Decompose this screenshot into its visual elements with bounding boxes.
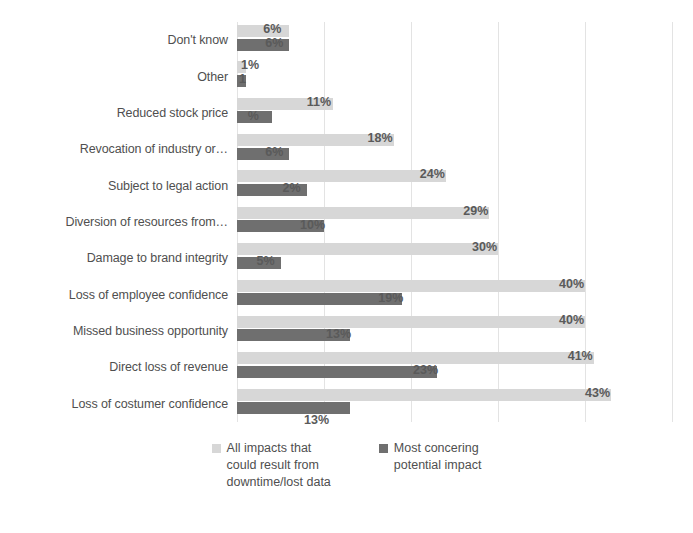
bar-value-most-concerning: 2% <box>283 182 301 194</box>
bar-group: 40%19% <box>237 277 693 313</box>
chart-row: Missed business opportunity40%13% <box>0 313 693 349</box>
bar-value-most-concerning: 13% <box>326 328 351 340</box>
plot-area: Don't know6%6%Other1%1Reduced stock pric… <box>0 22 693 422</box>
bar-value-all-impacts: 43% <box>585 387 610 399</box>
bar-group: 18%6% <box>237 131 693 167</box>
category-label: Loss of costumer confidence <box>0 386 228 422</box>
legend-item[interactable]: All impacts that could result from downt… <box>212 440 331 491</box>
bar-all-impacts <box>237 280 585 292</box>
chart-legend: All impacts that could result from downt… <box>0 440 693 491</box>
category-label: Don't know <box>0 22 228 58</box>
chart-row: Subject to legal action24%2% <box>0 167 693 203</box>
chart-row: Loss of costumer confidence43%13% <box>0 386 693 422</box>
legend-swatch-dark <box>379 444 388 453</box>
chart-row: Direct loss of revenue41%23% <box>0 349 693 385</box>
bar-value-all-impacts: 11% <box>307 96 331 108</box>
bar-value-all-impacts: 40% <box>559 278 584 290</box>
bar-value-all-impacts: 30% <box>472 241 497 253</box>
category-label: Revocation of industry or… <box>0 131 228 167</box>
category-label: Direct loss of revenue <box>0 349 228 385</box>
bar-value-most-concerning: 1 <box>239 73 246 85</box>
bar-group: 40%13% <box>237 313 693 349</box>
bar-group: 41%23% <box>237 349 693 385</box>
category-label: Subject to legal action <box>0 167 228 203</box>
bar-group: 29%10% <box>237 204 693 240</box>
chart-row: Revocation of industry or…18%6% <box>0 131 693 167</box>
category-label: Diversion of resources from… <box>0 204 228 240</box>
legend-label: Most concering potential impact <box>394 440 482 474</box>
bar-chart: Don't know6%6%Other1%1Reduced stock pric… <box>0 0 693 533</box>
bar-all-impacts <box>237 207 489 219</box>
category-label: Missed business opportunity <box>0 313 228 349</box>
chart-row: Damage to brand integrity30%5% <box>0 240 693 276</box>
bar-group: 24%2% <box>237 167 693 203</box>
legend-swatch-light <box>212 444 221 453</box>
bar-value-all-impacts: 1% <box>241 59 259 71</box>
legend-item[interactable]: Most concering potential impact <box>379 440 482 474</box>
bar-most-concerning <box>237 366 437 378</box>
category-label: Loss of employee confidence <box>0 277 228 313</box>
bar-value-most-concerning: 10% <box>300 219 325 231</box>
category-label: Damage to brand integrity <box>0 240 228 276</box>
bar-value-most-concerning: 13% <box>304 414 329 426</box>
chart-row: Diversion of resources from…29%10% <box>0 204 693 240</box>
bar-value-most-concerning: 6% <box>265 146 283 158</box>
bar-group: 43%13% <box>237 386 693 422</box>
chart-row: Other1%1 <box>0 58 693 94</box>
bar-rows: Don't know6%6%Other1%1Reduced stock pric… <box>0 22 693 422</box>
chart-row: Don't know6%6% <box>0 22 693 58</box>
bar-all-impacts <box>237 389 611 401</box>
bar-all-impacts <box>237 170 446 182</box>
category-label: Other <box>0 58 228 94</box>
bar-value-most-concerning: 6% <box>265 37 283 49</box>
chart-row: Reduced stock price11%% <box>0 95 693 131</box>
bar-all-impacts <box>237 316 585 328</box>
bar-group: 11%% <box>237 95 693 131</box>
bar-value-all-impacts: 40% <box>559 314 584 326</box>
chart-row: Loss of employee confidence40%19% <box>0 277 693 313</box>
bar-group: 6%6% <box>237 22 693 58</box>
bar-value-most-concerning: 23% <box>413 364 438 376</box>
bar-value-all-impacts: 29% <box>463 205 488 217</box>
category-label: Reduced stock price <box>0 95 228 131</box>
bar-group: 30%5% <box>237 240 693 276</box>
bar-group: 1%1 <box>237 58 693 94</box>
bar-value-most-concerning: 5% <box>257 255 275 267</box>
bar-value-all-impacts: 18% <box>368 132 393 144</box>
bar-all-impacts <box>237 243 498 255</box>
bar-value-most-concerning: 19% <box>378 292 403 304</box>
bar-value-most-concerning: % <box>248 110 259 122</box>
legend-label: All impacts that could result from downt… <box>227 440 331 491</box>
bar-most-concerning <box>237 402 350 414</box>
bar-value-all-impacts: 24% <box>420 168 445 180</box>
bar-value-all-impacts: 41% <box>568 350 593 362</box>
bar-value-all-impacts: 6% <box>263 23 281 35</box>
